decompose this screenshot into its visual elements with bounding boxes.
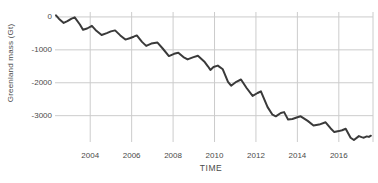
vertical-gridlines — [90, 12, 373, 142]
y-tick-label--1000: -1000 — [32, 45, 53, 54]
x-tick-label-2004: 2004 — [81, 151, 99, 160]
chart-canvas: 2004200620082010201220142016 0-1000-2000… — [0, 0, 378, 183]
y-tick-label-0: 0 — [48, 12, 53, 21]
x-tick-label-2006: 2006 — [123, 151, 141, 160]
x-tick-label-2016: 2016 — [330, 151, 348, 160]
y-tick-label--3000: -3000 — [32, 111, 53, 120]
x-tick-label-2010: 2010 — [206, 151, 224, 160]
x-tick-label-2014: 2014 — [288, 151, 306, 160]
mass-anomaly-line — [56, 15, 371, 140]
x-axis-tick-labels: 2004200620082010201220142016 — [81, 151, 348, 160]
y-axis-tick-labels: 0-1000-2000-3000 — [32, 12, 53, 120]
greenland-mass-chart: 2004200620082010201220142016 0-1000-2000… — [0, 0, 378, 183]
y-tick-label--2000: -2000 — [32, 78, 53, 87]
x-axis-title: TIME — [200, 163, 222, 173]
y-axis-title: Greenland mass (Gt) — [6, 24, 15, 103]
x-tick-label-2008: 2008 — [164, 151, 182, 160]
x-tick-label-2012: 2012 — [247, 151, 265, 160]
